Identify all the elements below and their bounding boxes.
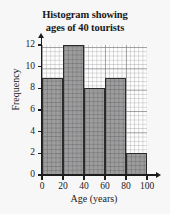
histogram-bar bbox=[105, 78, 126, 176]
y-axis-tick-label: 6 bbox=[21, 105, 35, 115]
x-axis-tick bbox=[41, 175, 42, 180]
y-axis-tick bbox=[38, 66, 43, 67]
x-axis-tick-label: 80 bbox=[116, 181, 136, 191]
x-axis-tick-label: 100 bbox=[137, 181, 157, 191]
x-axis-tick bbox=[146, 175, 147, 180]
chart-title: Histogram showing ages of 40 tourists bbox=[0, 9, 170, 34]
x-axis-tick bbox=[62, 175, 63, 180]
y-axis-tick-label: 12 bbox=[21, 40, 35, 50]
x-axis-label: Age (years) bbox=[24, 193, 164, 204]
y-axis-arrow-icon bbox=[38, 33, 44, 38]
x-axis-tick-label: 0 bbox=[32, 181, 52, 191]
x-axis-tick bbox=[104, 175, 105, 180]
y-axis-line bbox=[41, 38, 43, 176]
y-axis-tick bbox=[38, 109, 43, 110]
x-axis-tick-label: 60 bbox=[95, 181, 115, 191]
x-axis-tick-label: 20 bbox=[53, 181, 73, 191]
x-axis-line bbox=[41, 174, 157, 176]
chart-title-line-1: Histogram showing bbox=[0, 9, 170, 22]
plot-area bbox=[42, 45, 147, 175]
x-axis-tick bbox=[125, 175, 126, 180]
histogram-bar bbox=[84, 88, 105, 175]
y-axis-tick-label: 4 bbox=[21, 127, 35, 137]
x-axis-tick bbox=[83, 175, 84, 180]
x-axis-tick-label: 40 bbox=[74, 181, 94, 191]
y-axis-tick bbox=[38, 44, 43, 45]
histogram-figure: Histogram showing ages of 40 tourists 02… bbox=[0, 0, 170, 214]
chart-title-line-2: ages of 40 tourists bbox=[0, 22, 170, 35]
y-axis-tick-label: 10 bbox=[21, 62, 35, 72]
histogram-bar bbox=[42, 78, 63, 176]
y-axis-tick-label: 0 bbox=[21, 170, 35, 180]
y-axis-label: Frequency bbox=[10, 45, 21, 135]
y-axis-tick bbox=[38, 131, 43, 132]
y-axis-tick bbox=[38, 88, 43, 89]
x-axis-arrow-icon bbox=[156, 172, 161, 178]
y-axis-tick-label: 2 bbox=[21, 148, 35, 158]
y-axis-tick bbox=[38, 153, 43, 154]
histogram-bar bbox=[63, 45, 84, 175]
y-axis-tick-label: 8 bbox=[21, 83, 35, 93]
histogram-bar bbox=[126, 153, 147, 175]
